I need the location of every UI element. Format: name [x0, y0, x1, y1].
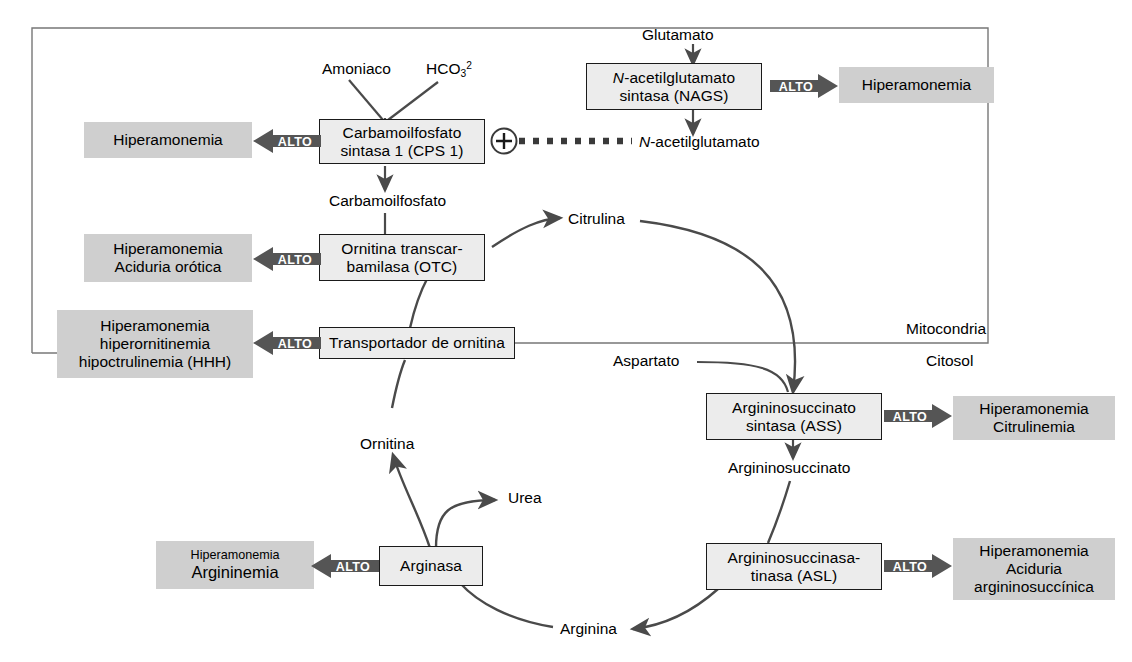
arrow-arginina-to-arginasa — [460, 583, 553, 627]
label-n-acetilglutamato: N-acetilglutamato — [639, 133, 760, 150]
alto-label: ALTO — [336, 560, 370, 574]
label-ornitina: Ornitina — [360, 435, 414, 452]
disease-hhh-line1: Hiperamonemia — [79, 317, 231, 335]
enzyme-nags-line1-rest: -acetilglutamato — [624, 69, 735, 86]
bicarbonato-base: HCO — [426, 60, 460, 77]
disease-otc-line1: Hiperamonemia — [113, 240, 222, 258]
arrow-transportador-to-otc — [410, 277, 428, 328]
disease-asl-line3: argininosuccínica — [974, 578, 1094, 596]
disease-box-hhh: Hiperamonemia hiperornitinemia hipoctrul… — [57, 310, 253, 378]
alto-label: ALTO — [779, 80, 813, 94]
label-urea: Urea — [508, 489, 542, 506]
arrow-bicarbonato-to-cps1 — [388, 82, 438, 120]
label-carbamoilfosfato: Carbamoilfosfato — [329, 192, 446, 209]
disease-cps1-line1: Hiperamonemia — [113, 131, 222, 149]
alto-arrow-asl: ALTO — [884, 551, 952, 581]
alto-arrow-nags: ALTO — [770, 71, 838, 101]
label-citrulina: Citrulina — [568, 210, 625, 227]
disease-asl-line2: Aciduria — [974, 560, 1094, 578]
bicarbonato-superscript: 2 — [466, 60, 472, 71]
label-arginina: Arginina — [560, 620, 617, 637]
alto-label: ALTO — [278, 253, 312, 267]
disease-ass-line2: Citrulinemia — [979, 418, 1088, 436]
enzyme-asl-line2: tinasa (ASL) — [728, 567, 861, 584]
disease-ass-line1: Hiperamonemia — [979, 400, 1088, 418]
enzyme-nags-line1: N-acetilglutamato — [613, 69, 735, 86]
arrow-otc-to-citrulina — [492, 218, 560, 247]
enzyme-cps1-line2: sintasa 1 (CPS 1) — [340, 142, 463, 159]
arrow-aspartato-to-ass — [697, 362, 788, 392]
disease-box-nags: Hiperamonemia — [839, 67, 994, 103]
alto-arrow-otc: ALTO — [253, 244, 321, 274]
alto-arrow-hhh: ALTO — [253, 328, 321, 358]
disease-hhh-line2: hiperornitinemia — [79, 335, 231, 353]
arrow-asl-to-arginina — [633, 589, 718, 629]
alto-label: ALTO — [893, 560, 927, 574]
label-argininosuccinato: Argininosuccinato — [728, 459, 850, 476]
italic-n-prefix: N — [639, 133, 650, 150]
enzyme-box-ass[interactable]: Argininosuccinato sintasa (ASS) — [706, 393, 882, 440]
italic-n-prefix: N — [613, 69, 624, 86]
label-aspartato: Aspartato — [613, 352, 679, 369]
enzyme-otc-line1: Ornitina transcar- — [341, 240, 463, 257]
disease-arg-line2: Argininemia — [191, 563, 280, 582]
disease-hhh-line3: hipoctrulinemia (HHH) — [79, 353, 231, 371]
label-mitocondria: Mitocondria — [906, 320, 986, 338]
disease-otc-line2: Aciduria orótica — [113, 258, 222, 276]
arrow-amoniaco-to-cps1 — [349, 80, 383, 120]
enzyme-box-otc[interactable]: Ornitina transcar- bamilasa (OTC) — [319, 234, 485, 281]
label-glutamato: Glutamato — [642, 26, 714, 43]
enzyme-box-ornithine-transporter[interactable]: Transportador de ornitina — [319, 327, 515, 359]
alto-arrow-ass: ALTO — [884, 401, 952, 431]
disease-box-arginasa: Hiperamonemia Argininemia — [156, 541, 314, 589]
enzyme-nags-line2: sintasa (NAGS) — [613, 87, 735, 104]
disease-asl-line1: Hiperamonemia — [974, 542, 1094, 560]
n-acetilglutamato-rest: -acetilglutamato — [650, 133, 759, 150]
enzyme-cps1-line1: Carbamoilfosfato — [340, 124, 463, 141]
enzyme-ornt-line1: Transportador de ornitina — [329, 334, 505, 351]
label-citosol: Citosol — [926, 352, 973, 370]
disease-box-ass: Hiperamonemia Citrulinemia — [953, 396, 1115, 440]
disease-box-otc: Hiperamonemia Aciduria orótica — [84, 234, 252, 282]
label-bicarbonato: HCO32 — [426, 60, 472, 79]
arrow-argininosuccinato-to-asl — [768, 481, 790, 543]
disease-arg-line1: Hiperamonemia — [191, 548, 280, 563]
urea-cycle-diagram: ALTO ALTO ALTO ALTO ALTO ALTO — [0, 0, 1132, 662]
enzyme-arginasa-line1: Arginasa — [400, 557, 462, 574]
arrow-ornitina-to-transportador — [392, 360, 405, 408]
enzyme-asl-line1: Argininosuccinasa- — [728, 549, 861, 566]
enzyme-box-arginasa[interactable]: Arginasa — [379, 546, 483, 586]
arrow-arginasa-to-ornitina — [393, 455, 430, 548]
alto-arrow-cps1: ALTO — [253, 126, 321, 156]
alto-label: ALTO — [893, 410, 927, 424]
enzyme-box-cps1[interactable]: Carbamoilfosfato sintasa 1 (CPS 1) — [319, 119, 485, 164]
disease-box-cps1: Hiperamonemia — [84, 122, 252, 158]
enzyme-ass-line1: Argininosuccinato — [732, 399, 856, 416]
label-amoniaco: Amoniaco — [322, 60, 391, 77]
arrow-arginasa-to-urea — [436, 500, 495, 548]
disease-nags-line1: Hiperamonemia — [862, 76, 971, 94]
alto-arrow-arginasa: ALTO — [311, 551, 379, 581]
alto-label: ALTO — [278, 135, 312, 149]
disease-box-asl: Hiperamonemia Aciduria argininosuccínica — [953, 538, 1115, 600]
enzyme-box-nags[interactable]: N-acetilglutamato sintasa (NAGS) — [586, 63, 762, 110]
enzyme-otc-line2: bamilasa (OTC) — [341, 258, 463, 275]
enzyme-box-asl[interactable]: Argininosuccinasa- tinasa (ASL) — [706, 543, 882, 590]
alto-label: ALTO — [278, 337, 312, 351]
enzyme-ass-line2: sintasa (ASS) — [732, 417, 856, 434]
